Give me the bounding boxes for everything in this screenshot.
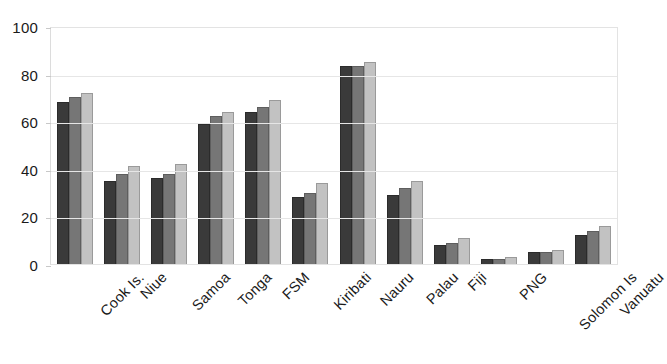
bar-group [198,28,234,264]
bar-group [151,28,187,264]
y-axis: 020406080100 [0,0,44,364]
plot-area [50,27,618,265]
bar [540,252,552,264]
bar [222,112,234,264]
bar [151,178,163,264]
bar [575,235,587,264]
bar [587,231,599,264]
bar [269,100,281,264]
x-tick-label: Cook Is. [97,269,147,319]
x-tick-label: Nauru [377,269,417,309]
y-tick-mark [46,218,51,219]
bar [128,166,140,264]
bar-group [387,28,423,264]
bar-group [481,28,517,264]
x-tick-label: Palau [423,269,461,307]
bar [198,124,210,264]
x-tick-label: Fiji [465,269,490,294]
bar-group [340,28,376,264]
bar [104,181,116,264]
bar-group [292,28,328,264]
bar [257,107,269,264]
x-tick-label: FSM [279,269,312,302]
bar [81,93,93,264]
bar [458,238,470,264]
bar [316,183,328,264]
bar-group [528,28,564,264]
bar [292,197,304,264]
gridline [51,76,617,77]
y-tick-mark [46,123,51,124]
bar [434,245,446,264]
bar [399,188,411,264]
bar [505,257,517,264]
y-tick-label: 0 [29,257,38,274]
bar [552,250,564,264]
y-tick-mark [46,28,51,29]
y-tick-mark [46,171,51,172]
y-tick-label: 60 [21,114,38,131]
x-tick-label: Tonga [235,269,275,309]
x-tick-label: PNG [516,269,550,303]
bar [493,259,505,264]
bar [304,193,316,264]
bar [340,66,352,264]
x-tick-label: Samoa [189,269,234,314]
y-tick-label: 20 [21,209,38,226]
bar [352,66,364,264]
bar-group [575,28,611,264]
bar-groups [51,28,617,264]
x-tick-label: Niue [137,269,170,302]
bar [481,259,493,264]
y-tick-label: 40 [21,161,38,178]
gridline [51,123,617,124]
y-tick-label: 80 [21,66,38,83]
bar [446,243,458,264]
bar [210,116,222,264]
gridline [51,171,617,172]
y-tick-mark [46,76,51,77]
gridline [51,218,617,219]
bar [411,181,423,264]
x-tick-label: Kiribati [331,269,375,313]
bar [599,226,611,264]
bar [364,62,376,264]
bar [245,112,257,264]
bar-group [245,28,281,264]
bar [175,164,187,264]
bar-group [434,28,470,264]
bar-group [104,28,140,264]
y-tick-label: 100 [12,19,38,36]
bar-group [57,28,93,264]
x-axis: Cook Is.NiueSamoaTongaFSMKiribatiNauruPa… [50,265,618,364]
bar [57,102,69,264]
bar [528,252,540,264]
bar [387,195,399,264]
